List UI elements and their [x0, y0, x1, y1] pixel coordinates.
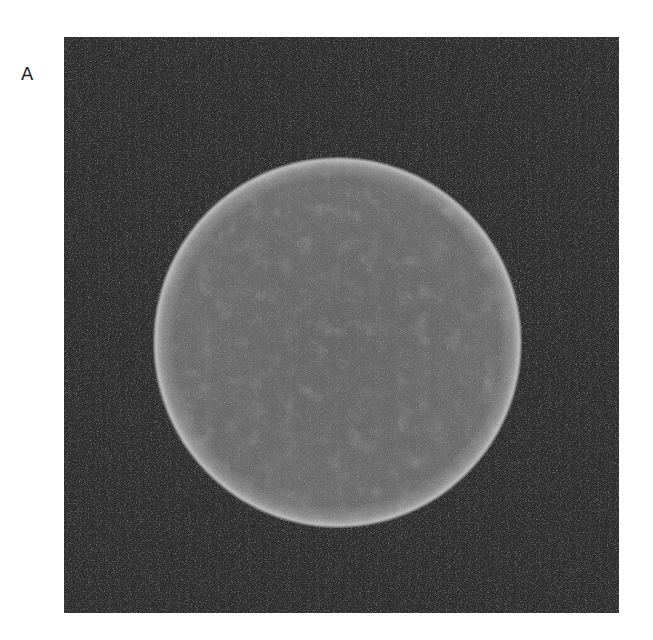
phantom-image-svg: [64, 37, 619, 613]
panel-label: A: [21, 65, 33, 83]
phantom-image: [64, 37, 619, 613]
